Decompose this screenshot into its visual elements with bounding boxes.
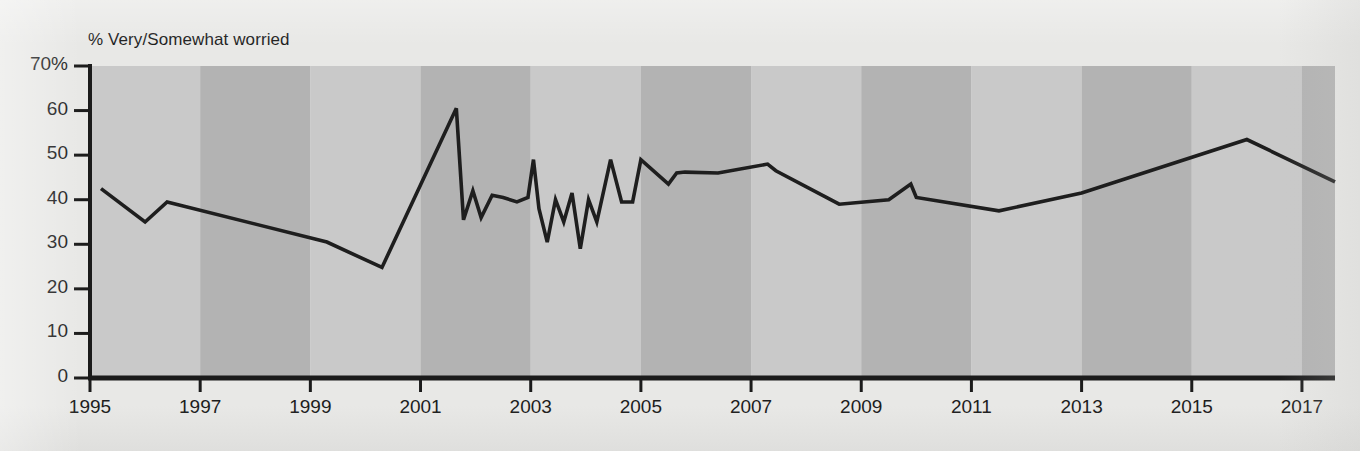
background-band xyxy=(641,66,751,378)
background-band xyxy=(200,66,310,378)
background-band xyxy=(1302,66,1335,378)
x-tick-label: 2009 xyxy=(821,396,901,418)
y-tick-label: 60 xyxy=(12,98,68,120)
background-band xyxy=(1192,66,1302,378)
y-tick-label: 0 xyxy=(12,365,68,387)
y-tick-label: 50 xyxy=(12,142,68,164)
x-tick-label: 2005 xyxy=(601,396,681,418)
background-band xyxy=(861,66,971,378)
background-band xyxy=(751,66,861,378)
x-tick-label: 2015 xyxy=(1152,396,1232,418)
chart-container: % Very/Somewhat worried 70%6050403020100… xyxy=(0,0,1360,451)
x-tick-label: 2003 xyxy=(491,396,571,418)
x-tick-label: 1999 xyxy=(270,396,350,418)
line-chart-plot xyxy=(0,0,1360,451)
x-tick-label: 1995 xyxy=(50,396,130,418)
y-tick-label: 10 xyxy=(12,320,68,342)
background-band xyxy=(421,66,531,378)
x-tick-label: 2013 xyxy=(1042,396,1122,418)
background-band xyxy=(971,66,1081,378)
x-tick-label: 2011 xyxy=(931,396,1011,418)
y-tick-label: 70% xyxy=(12,53,68,75)
y-tick-label: 40 xyxy=(12,187,68,209)
y-tick-label: 20 xyxy=(12,276,68,298)
x-tick-label: 1997 xyxy=(160,396,240,418)
y-tick-label: 30 xyxy=(12,231,68,253)
background-band xyxy=(1082,66,1192,378)
x-tick-label: 2001 xyxy=(381,396,461,418)
x-tick-label: 2017 xyxy=(1262,396,1342,418)
background-bands xyxy=(90,66,1335,378)
x-tick-label: 2007 xyxy=(711,396,791,418)
